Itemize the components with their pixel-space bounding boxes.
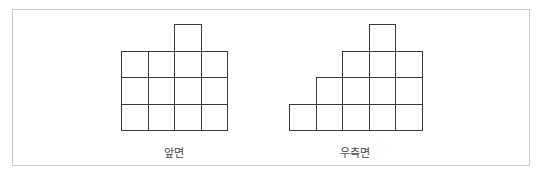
grid-cell bbox=[316, 104, 344, 132]
grid-cell bbox=[289, 104, 317, 132]
grid-cell bbox=[174, 104, 202, 132]
grid-cell bbox=[148, 77, 176, 105]
grid-cell bbox=[121, 51, 149, 79]
grid-cell bbox=[369, 24, 397, 52]
grid-cell bbox=[201, 77, 229, 105]
grid-cell bbox=[148, 51, 176, 79]
grid-cell bbox=[395, 77, 423, 105]
grid-cell bbox=[174, 51, 202, 79]
grid-cell bbox=[174, 24, 202, 52]
grid-cell bbox=[342, 51, 370, 79]
grid-cell bbox=[342, 104, 370, 132]
grid-cell bbox=[369, 104, 397, 132]
grid-cell bbox=[369, 77, 397, 105]
front-view-label: 앞면 bbox=[164, 144, 184, 160]
grid-cell bbox=[369, 51, 397, 79]
grid-cell bbox=[121, 104, 149, 132]
grid-cell bbox=[342, 77, 370, 105]
grid-cell bbox=[174, 77, 202, 105]
grid-cell bbox=[201, 104, 229, 132]
grid-cell bbox=[148, 104, 176, 132]
grid-cell bbox=[201, 51, 229, 79]
grid-cell bbox=[395, 104, 423, 132]
grid-cell bbox=[316, 77, 344, 105]
grid-cell bbox=[395, 51, 423, 79]
figure-frame bbox=[12, 9, 530, 166]
grid-cell bbox=[121, 77, 149, 105]
right-side-view-label: 우측면 bbox=[340, 144, 370, 160]
